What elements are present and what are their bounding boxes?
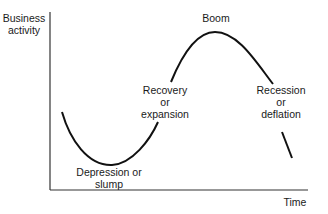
- recession-line2: or: [252, 96, 310, 108]
- recovery-line3: expansion: [136, 108, 194, 120]
- depression-line2: slump: [68, 178, 150, 190]
- boom-label: Boom: [196, 12, 236, 24]
- recession-line1: Recession: [252, 84, 310, 96]
- y-axis-label: Business activity: [2, 12, 46, 36]
- y-axis-label-line2: activity: [2, 24, 46, 36]
- recession-label: Recession or deflation: [252, 84, 310, 120]
- cycle-curve-decline: [282, 132, 292, 158]
- recovery-label: Recovery or expansion: [136, 84, 194, 120]
- x-axis-label-text: Time: [280, 196, 310, 208]
- depression-label: Depression or slump: [68, 166, 150, 190]
- depression-line1: Depression or: [68, 166, 150, 178]
- x-axis-label: Time: [280, 196, 310, 208]
- recession-line3: deflation: [252, 108, 310, 120]
- cycle-curve-peak: [171, 32, 273, 84]
- recovery-line1: Recovery: [136, 84, 194, 96]
- recovery-line2: or: [136, 96, 194, 108]
- y-axis-label-line1: Business: [2, 12, 46, 24]
- boom-text: Boom: [196, 12, 236, 24]
